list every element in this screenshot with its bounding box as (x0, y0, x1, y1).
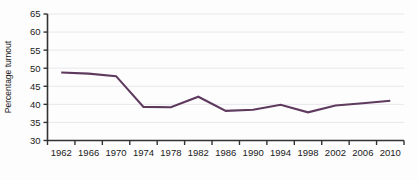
x-axis-tick-label: 1986 (215, 147, 236, 158)
line-chart: 3035404550556065 19621966197019741978198… (0, 0, 418, 180)
x-axis-tick-label: 1962 (51, 147, 72, 158)
x-axis-tick-label: 2002 (325, 147, 346, 158)
y-axis-tick-label: 55 (30, 45, 41, 56)
x-axis-tick-label: 1966 (78, 147, 99, 158)
y-axis-tick-label: 45 (30, 81, 41, 92)
y-axis-tick-label: 50 (30, 63, 41, 74)
y-axis-tick-label: 35 (30, 117, 41, 128)
x-axis-tick-label: 1978 (160, 147, 181, 158)
x-axis-tick-label: 1990 (243, 147, 264, 158)
x-axis-tick-label: 1998 (297, 147, 318, 158)
y-axis-title: Percentage turnout (3, 40, 13, 113)
y-axis-tick-label: 30 (30, 135, 41, 146)
x-axis-tick-label: 2010 (380, 147, 401, 158)
x-axis-tick-label: 2006 (352, 147, 373, 158)
y-axis-tick-label: 40 (30, 99, 41, 110)
chart-container: 3035404550556065 19621966197019741978198… (0, 0, 418, 180)
y-axis-tick-label: 65 (30, 8, 41, 19)
x-axis-tick-label: 1994 (270, 147, 291, 158)
x-axis-tick-label: 1982 (188, 147, 209, 158)
x-axis-tick-label: 1970 (105, 147, 126, 158)
x-axis-tick-label: 1974 (133, 147, 154, 158)
y-axis-tick-label: 60 (30, 26, 41, 37)
